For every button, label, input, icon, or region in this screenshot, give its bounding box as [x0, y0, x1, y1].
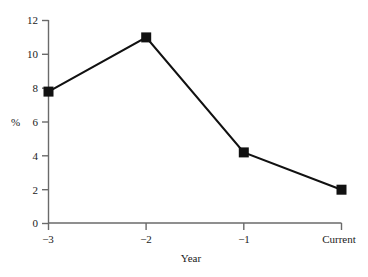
- line-chart-figure: 12 10 8 6 4 2 0 % −3 −2 −1 Current Year: [0, 0, 368, 277]
- y-axis-ticks: [42, 21, 49, 224]
- x-tick-label-current: Current: [322, 234, 356, 245]
- x-tick-label-minus-2: −2: [140, 234, 152, 245]
- data-point-marker[interactable]: [44, 87, 54, 97]
- data-point-markers: [44, 32, 347, 194]
- chart-plot-area: [0, 0, 368, 277]
- y-tick-label-8: 8: [12, 83, 38, 94]
- y-axis-title: %: [11, 117, 20, 128]
- data-point-marker[interactable]: [239, 147, 249, 157]
- x-axis-ticks: [49, 223, 342, 230]
- y-tick-label-12: 12: [12, 15, 38, 26]
- data-point-marker[interactable]: [141, 32, 151, 42]
- x-tick-label-minus-3: −3: [42, 234, 54, 245]
- y-tick-label-10: 10: [12, 49, 38, 60]
- y-tick-label-0: 0: [12, 218, 38, 229]
- y-tick-label-2: 2: [12, 185, 38, 196]
- x-axis-title: Year: [181, 253, 201, 264]
- data-series-line: [49, 37, 342, 189]
- x-tick-label-minus-1: −1: [238, 234, 250, 245]
- data-point-marker[interactable]: [337, 185, 347, 195]
- y-tick-label-4: 4: [12, 151, 38, 162]
